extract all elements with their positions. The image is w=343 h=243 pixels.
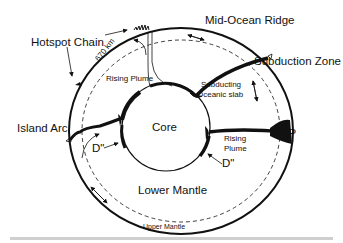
label-island-arc: Island Arc xyxy=(17,123,68,135)
label-lip: LIP xyxy=(279,128,296,140)
hotspot-chain-arrow xyxy=(67,47,72,76)
label-subducting-slab-1: Subducting xyxy=(201,81,241,89)
label-rising-plume-top: Rising Plume xyxy=(106,75,153,83)
label-rising-plume-right-1: Rising xyxy=(224,135,246,143)
label-core: Core xyxy=(152,122,177,134)
label-subducting-slab-2: Oceanic slab xyxy=(197,91,243,99)
label-hotspot-chain: Hotspot Chain xyxy=(31,37,104,49)
label-lower-mantle: Lower Mantle xyxy=(138,185,207,197)
label-upper-mantle: Upper Mantle xyxy=(143,223,185,230)
island-arc-slab xyxy=(70,118,122,140)
label-d-double-prime-right: D" xyxy=(222,158,234,170)
d-double-prime-left-arrow xyxy=(104,143,118,148)
label-subduction-zone: Subduction Zone xyxy=(254,56,341,68)
label-rising-plume-right-2: Plume xyxy=(224,145,247,153)
flow-arrow-top xyxy=(134,40,146,55)
earth-mantle-diagram: Mid-Ocean Ridge Hotspot Chain Subduction… xyxy=(0,0,343,243)
footer-divider xyxy=(10,237,333,240)
label-d-double-prime-left: D" xyxy=(92,143,104,155)
label-mid-ocean-ridge: Mid-Ocean Ridge xyxy=(205,15,294,27)
hotspot-marker xyxy=(75,82,82,86)
hotspot-volcanoes xyxy=(134,25,149,30)
hotspot-track-arrow xyxy=(105,30,127,35)
d-double-prime-right-arrow xyxy=(208,154,222,164)
